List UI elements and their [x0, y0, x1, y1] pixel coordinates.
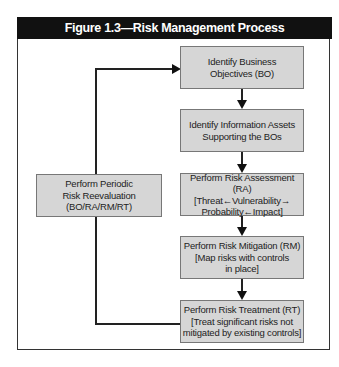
- connector-4: [241, 278, 243, 292]
- step-label: Perform Risk Assessment (RA) [Threat←Vul…: [181, 172, 303, 218]
- loop-line-bottom: [95, 323, 181, 325]
- step-risk-assessment: Perform Risk Assessment (RA) [Threat←Vul…: [180, 173, 304, 216]
- step-label: Perform Periodic Risk Reevaluation (BO/R…: [62, 178, 135, 213]
- arrow-down-icon: [237, 227, 247, 236]
- arrow-down-icon: [237, 100, 247, 109]
- step-periodic-reevaluation: Perform Periodic Risk Reevaluation (BO/R…: [36, 174, 162, 217]
- arrow-down-icon: [237, 291, 247, 300]
- step-risk-mitigation: Perform Risk Mitigation (RM) [Map risks …: [180, 236, 304, 279]
- step-identify-business-objectives: Identify Business Objectives (BO): [180, 46, 304, 89]
- step-label: Perform Risk Mitigation (RM) [Map risks …: [184, 240, 300, 275]
- loop-line-left-upper: [95, 68, 97, 175]
- loop-line-left-lower: [95, 217, 97, 324]
- step-label: Identify Information Assets Supporting t…: [189, 119, 295, 142]
- step-identify-information-assets: Identify Information Assets Supporting t…: [180, 109, 304, 152]
- step-risk-treatment: Perform Risk Treatment (RT) [Treat signi…: [180, 300, 304, 343]
- loop-line-top: [95, 68, 173, 70]
- step-label: Perform Risk Treatment (RT) [Treat signi…: [183, 304, 301, 339]
- step-label: Identify Business Objectives (BO): [208, 56, 276, 79]
- figure-title: Figure 1.3—Risk Management Process: [17, 17, 332, 39]
